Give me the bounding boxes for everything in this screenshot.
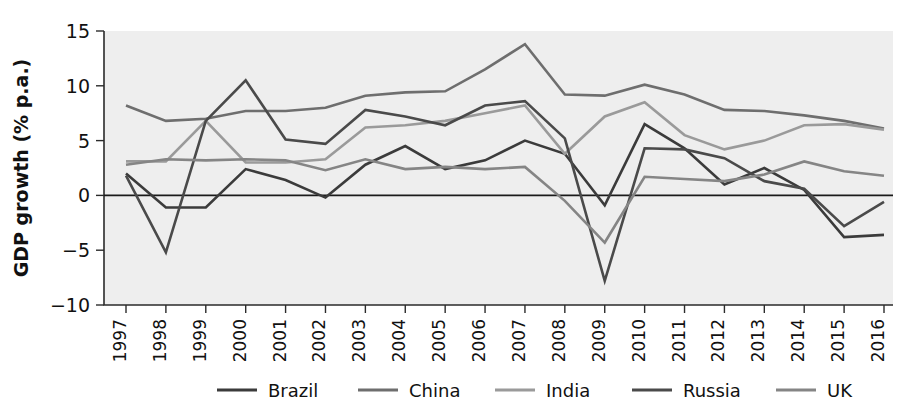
x-tick-label: 1998 (150, 319, 170, 362)
x-tick-label: 1999 (190, 319, 210, 362)
legend-label-uk: UK (827, 380, 853, 401)
x-tick-label: 2007 (509, 319, 529, 362)
chart-canvas: GDP growth (% p.a.) −10−5051015 19971998… (0, 0, 921, 412)
y-tick-label: 10 (66, 75, 90, 97)
legend-label-russia: Russia (683, 380, 741, 401)
gdp-growth-line-chart: GDP growth (% p.a.) −10−5051015 19971998… (0, 0, 921, 412)
x-tick-label: 2011 (669, 319, 689, 362)
x-tick-label: 2003 (349, 319, 369, 362)
y-tick-label: −5 (62, 239, 90, 261)
x-tick-label: 2009 (589, 319, 609, 362)
x-tick-label: 2001 (270, 319, 290, 362)
x-tick-label: 1997 (110, 319, 130, 362)
y-axis-ticks: −10−5051015 (50, 20, 104, 316)
x-tick-label: 2015 (828, 319, 848, 362)
x-tick-label: 2008 (549, 319, 569, 362)
x-tick-label: 2006 (469, 319, 489, 362)
x-tick-label: 2002 (309, 319, 329, 362)
legend-label-china: China (409, 380, 460, 401)
x-tick-label: 2005 (429, 319, 449, 362)
y-axis-title: GDP growth (% p.a.) (10, 59, 32, 278)
x-tick-label: 2010 (629, 319, 649, 362)
x-axis-ticks: 1997199819992000200120022003200420052006… (110, 305, 888, 362)
legend-label-india: India (546, 380, 590, 401)
x-tick-label: 2014 (788, 319, 808, 362)
y-tick-label: 15 (66, 20, 90, 42)
y-tick-label: −10 (50, 294, 90, 316)
y-tick-label: 5 (78, 130, 90, 152)
x-tick-label: 2012 (708, 319, 728, 362)
x-tick-label: 2013 (748, 319, 768, 362)
y-tick-label: 0 (78, 184, 90, 206)
chart-legend: BrazilChinaIndiaRussiaUK (217, 380, 853, 401)
legend-label-brazil: Brazil (268, 380, 318, 401)
x-tick-label: 2016 (868, 319, 888, 362)
x-tick-label: 2004 (389, 319, 409, 362)
x-tick-label: 2000 (230, 319, 250, 362)
